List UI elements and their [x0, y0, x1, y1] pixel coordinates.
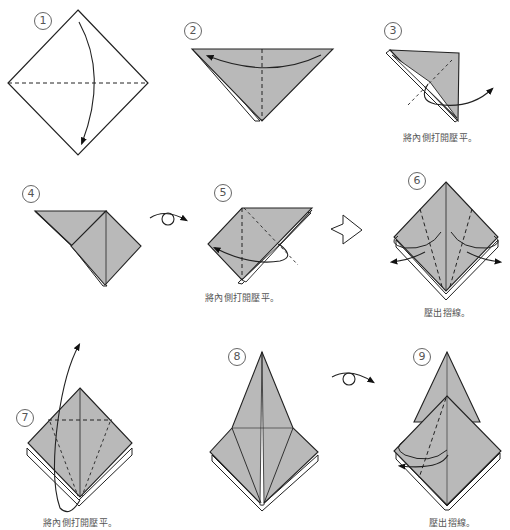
step-number-7: 7: [16, 409, 34, 427]
step-number-9: 9: [413, 348, 431, 366]
step-7-caption: 將內側打開壓平。: [43, 516, 117, 529]
step-8: [210, 352, 318, 511]
step-9-caption: 壓出摺線。: [429, 516, 476, 529]
step-6-caption: 壓出摺線。: [424, 306, 471, 319]
step-7: [27, 345, 132, 512]
step-4: [35, 211, 141, 286]
step-number-8: 8: [228, 348, 246, 366]
step-number-6: 6: [408, 172, 426, 190]
step-9: [394, 352, 501, 510]
step-2: [192, 49, 333, 121]
step-number-4: 4: [22, 185, 40, 203]
turn-over-icon: [332, 373, 373, 385]
step-number-3: 3: [384, 22, 402, 40]
step-number-5: 5: [214, 184, 232, 202]
turn-over-icon: [150, 213, 186, 225]
step-5-caption: 將內側打開壓平。: [205, 291, 279, 304]
step-1: [8, 10, 148, 155]
hollow-arrow-icon: [331, 215, 362, 244]
step-3: [386, 50, 492, 122]
origami-diagram: [0, 0, 510, 530]
step-6: [392, 182, 500, 300]
step-number-1: 1: [34, 12, 52, 30]
step-3-caption: 將內側打開壓平。: [403, 131, 477, 144]
paper-front: [394, 396, 501, 505]
step-number-2: 2: [184, 22, 202, 40]
paper-front: [208, 208, 312, 280]
step-5: [208, 208, 312, 284]
